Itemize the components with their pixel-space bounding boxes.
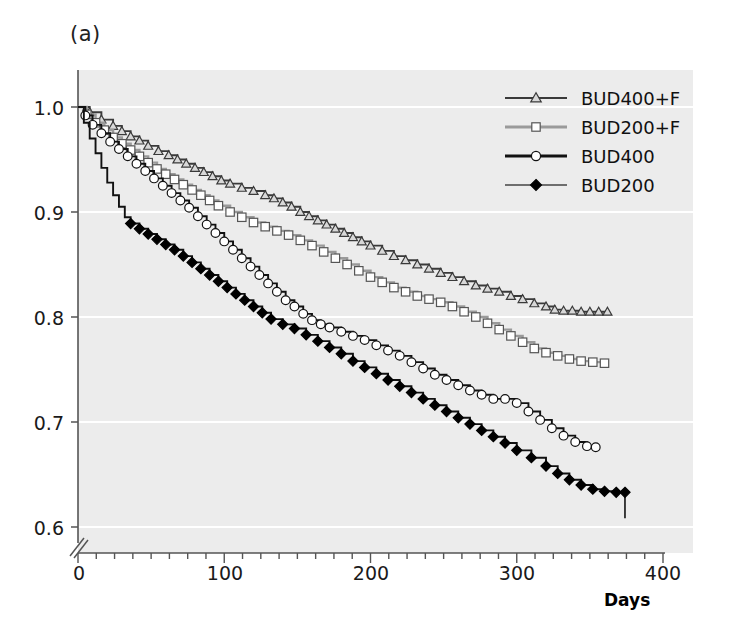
series-marker xyxy=(554,352,562,360)
y-axis-ticks xyxy=(71,107,78,527)
series-marker xyxy=(273,227,281,235)
series-marker xyxy=(197,191,205,199)
series-marker xyxy=(489,395,498,404)
series-marker xyxy=(495,325,503,333)
series-marker xyxy=(337,327,346,336)
series-marker xyxy=(542,349,550,357)
series-marker xyxy=(132,159,141,168)
series-marker xyxy=(214,202,222,210)
series-marker xyxy=(413,292,421,300)
series-marker xyxy=(384,346,393,355)
series-marker xyxy=(290,302,299,311)
series-marker xyxy=(188,186,196,194)
series-marker xyxy=(246,262,255,271)
series-marker xyxy=(401,288,409,296)
series-marker xyxy=(454,381,463,390)
series-marker xyxy=(372,341,381,350)
series-marker xyxy=(565,355,573,363)
series-marker xyxy=(366,273,374,281)
series-marker xyxy=(331,254,339,262)
series-marker xyxy=(211,229,220,238)
series-marker xyxy=(378,278,386,286)
series-marker xyxy=(202,220,211,229)
series-marker xyxy=(577,357,585,365)
legend-label-bud400plusf: BUD400+F xyxy=(581,88,680,109)
series-marker xyxy=(442,376,451,385)
series-marker xyxy=(507,332,515,340)
series-marker xyxy=(261,223,269,231)
series-marker xyxy=(460,308,468,316)
series-marker xyxy=(281,296,290,305)
series-marker xyxy=(425,295,433,303)
figure-panel-a: (a) 1.0 0.9 0.8 0.7 0.6 0 100 200 300 40… xyxy=(0,0,735,626)
series-marker xyxy=(273,287,282,296)
series-marker xyxy=(559,431,568,440)
series-marker xyxy=(583,442,592,451)
series-marker xyxy=(97,129,106,138)
series-marker xyxy=(167,189,176,198)
series-marker xyxy=(185,203,194,212)
legend-label-bud400: BUD400 xyxy=(581,146,655,167)
series-marker xyxy=(229,245,238,254)
series-marker xyxy=(237,254,246,263)
series-marker xyxy=(170,175,178,183)
series-marker xyxy=(589,358,597,366)
series-marker xyxy=(466,386,475,395)
series-marker xyxy=(547,424,556,433)
series-marker xyxy=(150,174,159,183)
series-marker xyxy=(115,145,124,154)
series-marker xyxy=(296,236,304,244)
legend-label-bud200: BUD200 xyxy=(581,175,655,196)
series-marker xyxy=(316,320,325,329)
series-marker xyxy=(308,316,317,325)
series-marker xyxy=(220,237,229,246)
series-marker xyxy=(390,283,398,291)
series-marker xyxy=(395,351,404,360)
series-marker xyxy=(437,298,445,306)
series-marker xyxy=(343,260,351,268)
series-marker xyxy=(419,364,428,373)
series-marker xyxy=(176,196,185,205)
series-marker xyxy=(407,358,416,367)
series-marker xyxy=(205,196,213,204)
series-marker xyxy=(158,181,167,190)
series-marker xyxy=(81,111,90,120)
kaplan-meier-plot: BUD400+FBUD200+FBUD400BUD200 xyxy=(0,0,735,626)
series-marker xyxy=(325,323,334,332)
series-marker xyxy=(524,407,533,416)
series-marker xyxy=(226,208,234,216)
series-marker xyxy=(249,218,257,226)
series-marker xyxy=(284,231,292,239)
series-marker xyxy=(308,241,316,249)
series-marker xyxy=(179,181,187,189)
series-marker xyxy=(106,137,115,146)
series-marker xyxy=(320,248,328,256)
series-marker xyxy=(501,395,510,404)
series-marker xyxy=(194,212,203,221)
series-marker xyxy=(518,338,526,346)
series-marker xyxy=(349,332,358,341)
series-marker xyxy=(360,336,369,345)
series-marker xyxy=(512,399,521,408)
series-marker xyxy=(532,123,540,131)
series-marker xyxy=(530,344,538,352)
series-marker xyxy=(299,309,308,318)
series-marker xyxy=(238,213,246,221)
series-marker xyxy=(162,170,170,178)
series-marker xyxy=(472,313,480,321)
series-marker xyxy=(531,151,540,160)
series-marker xyxy=(430,370,439,379)
series-marker xyxy=(255,271,264,280)
series-marker xyxy=(483,319,491,327)
series-marker xyxy=(448,302,456,310)
series-marker xyxy=(355,267,363,275)
series-marker xyxy=(536,416,545,425)
series-marker xyxy=(591,443,600,452)
series-marker xyxy=(264,279,273,288)
legend-label-bud200plusf: BUD200+F xyxy=(581,117,680,138)
series-marker xyxy=(141,167,150,176)
series-marker xyxy=(600,359,608,367)
series-marker xyxy=(123,152,132,161)
x-axis-ticks xyxy=(78,553,663,563)
series-marker xyxy=(477,390,486,399)
